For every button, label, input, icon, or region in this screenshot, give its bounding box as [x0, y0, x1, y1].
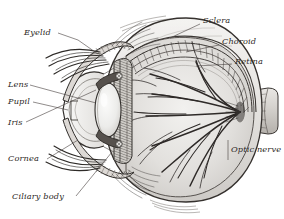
label-pupil: Pupil	[8, 97, 30, 105]
leader-pupil	[33, 102, 68, 110]
label-cornea: Cornea	[8, 154, 39, 162]
leader-cornea	[47, 140, 78, 159]
label-lens: Lens	[8, 80, 28, 88]
label-retina: Retina	[235, 57, 263, 65]
eye-anatomy-figure: Eyelid Lens Pupil Iris Cornea Ciliary bo…	[0, 0, 284, 219]
label-sclera: Sclera	[203, 16, 230, 24]
label-optic-nerve: Optic nerve	[231, 145, 281, 153]
label-choroid: Choroid	[222, 37, 256, 45]
label-eyelid: Eyelid	[24, 28, 51, 36]
label-iris: Iris	[8, 118, 23, 126]
lens	[95, 83, 121, 137]
label-ciliary-body: Ciliary body	[12, 192, 64, 200]
